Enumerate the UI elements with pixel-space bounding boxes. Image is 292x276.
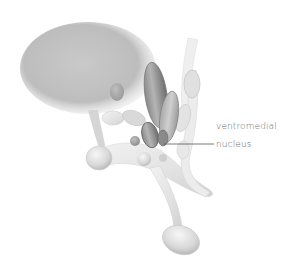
hypothalamus-illustration xyxy=(0,0,292,276)
pituitary-gland xyxy=(158,220,203,259)
right-oval xyxy=(184,70,200,98)
left-ball xyxy=(86,146,112,170)
label-nucleus: nucleus xyxy=(216,140,252,149)
small-bump xyxy=(110,83,124,101)
light-lobe-1 xyxy=(102,111,124,125)
small-sphere-1 xyxy=(130,136,140,146)
label-ventromedial: ventromedial xyxy=(216,122,277,131)
small-sphere-3 xyxy=(159,154,167,162)
small-sphere-2 xyxy=(137,152,151,166)
large-gray-mass xyxy=(20,22,156,114)
